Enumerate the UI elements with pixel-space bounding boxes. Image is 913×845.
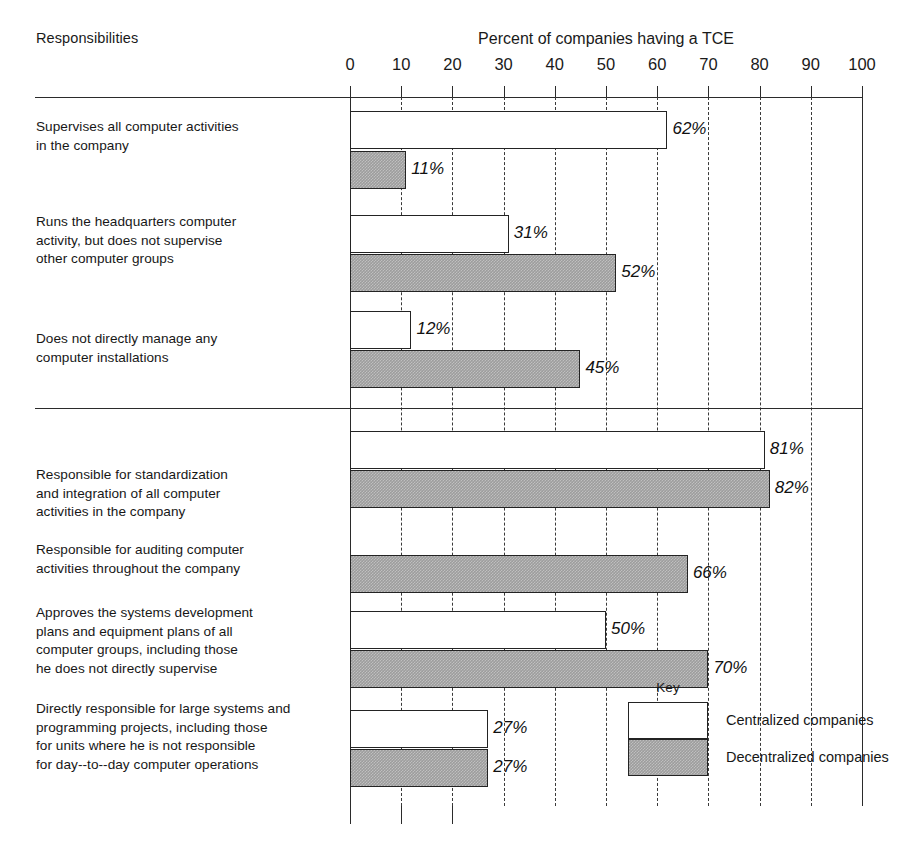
row-label-1: Runs the headquarters computer activity,… — [36, 213, 236, 269]
x-tick-mark-10 — [401, 86, 402, 97]
bar-value-decentralized-0: 11% — [411, 159, 444, 179]
x-tick-bottom-0 — [350, 806, 351, 824]
bar-centralized-3 — [350, 431, 765, 469]
legend-swatch-decentralized — [628, 739, 708, 776]
bar-decentralized-2 — [350, 350, 580, 388]
legend-title: Key — [656, 680, 679, 695]
bar-centralized-1 — [350, 215, 509, 253]
x-tick-label-0: 0 — [345, 55, 354, 74]
bar-centralized-5 — [350, 611, 606, 649]
x-tick-mark-30 — [504, 86, 505, 97]
x-tick-mark-100 — [862, 86, 863, 97]
x-tick-label-60: 60 — [648, 55, 666, 74]
row-label-5: Approves the systems development plans a… — [36, 604, 253, 678]
bar-value-centralized-2: 12% — [416, 319, 450, 339]
bar-value-centralized-0: 62% — [672, 119, 706, 139]
gridline-90 — [811, 97, 812, 806]
x-tick-label-90: 90 — [802, 55, 820, 74]
row-label-2: Does not directly manage any computer in… — [36, 330, 217, 367]
x-tick-mark-70 — [708, 86, 709, 97]
bar-value-centralized-6: 27% — [493, 718, 527, 738]
bar-value-decentralized-4: 66% — [693, 563, 727, 583]
legend-swatch-centralized — [628, 702, 708, 739]
axis-title: Percent of companies having a TCE — [350, 30, 862, 48]
x-tick-label-100: 100 — [848, 55, 876, 74]
bar-value-decentralized-6: 27% — [493, 757, 527, 777]
axis-top-rule — [35, 97, 862, 98]
x-tick-mark-0 — [350, 86, 351, 97]
bar-value-centralized-3: 81% — [770, 439, 804, 459]
x-tick-bottom-10 — [401, 806, 402, 824]
chart-root: Responsibilities Percent of companies ha… — [0, 0, 913, 845]
gridline-100 — [862, 97, 863, 806]
bar-decentralized-1 — [350, 254, 616, 292]
x-tick-label-80: 80 — [750, 55, 768, 74]
x-tick-mark-50 — [606, 86, 607, 97]
row-label-0: Supervises all computer activities in th… — [36, 118, 239, 155]
bar-decentralized-6 — [350, 749, 488, 787]
legend-label-centralized: Centralized companies — [726, 712, 874, 728]
x-tick-bottom-20 — [452, 806, 453, 824]
x-tick-mark-60 — [657, 86, 658, 97]
bar-value-decentralized-2: 45% — [585, 358, 619, 378]
x-tick-mark-90 — [811, 86, 812, 97]
bar-centralized-6 — [350, 710, 488, 748]
bar-centralized-0 — [350, 111, 667, 149]
x-tick-label-30: 30 — [494, 55, 512, 74]
x-tick-mark-40 — [555, 86, 556, 97]
x-tick-mark-20 — [452, 86, 453, 97]
row-label-4: Responsible for auditing computer activi… — [36, 541, 244, 578]
bar-decentralized-3 — [350, 470, 770, 508]
legend-label-decentralized: Decentralized companies — [726, 749, 889, 765]
bar-value-centralized-5: 50% — [611, 619, 645, 639]
bar-centralized-2 — [350, 311, 411, 349]
section-divider — [35, 408, 862, 409]
bar-value-centralized-1: 31% — [514, 223, 548, 243]
bar-decentralized-5 — [350, 650, 708, 688]
bar-value-decentralized-3: 82% — [775, 478, 809, 498]
bar-decentralized-4 — [350, 555, 688, 593]
x-tick-mark-80 — [760, 86, 761, 97]
x-tick-label-20: 20 — [443, 55, 461, 74]
row-label-3: Responsible for standardization and inte… — [36, 466, 228, 522]
bar-value-decentralized-1: 52% — [621, 262, 655, 282]
row-label-6: Directly responsible for large systems a… — [36, 700, 290, 774]
row-header-label: Responsibilities — [36, 30, 138, 46]
x-tick-label-40: 40 — [546, 55, 564, 74]
bar-value-decentralized-5: 70% — [713, 658, 747, 678]
x-tick-label-10: 10 — [392, 55, 410, 74]
x-tick-label-50: 50 — [597, 55, 615, 74]
x-tick-label-70: 70 — [699, 55, 717, 74]
bar-decentralized-0 — [350, 151, 406, 189]
